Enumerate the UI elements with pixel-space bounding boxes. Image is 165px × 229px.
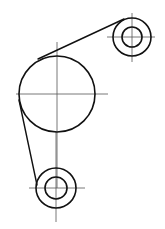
pulley-diagram xyxy=(0,0,165,229)
belts xyxy=(19,19,124,185)
belt-top-line xyxy=(38,19,124,59)
pulleys xyxy=(19,18,151,208)
belt-left-line xyxy=(19,100,37,185)
